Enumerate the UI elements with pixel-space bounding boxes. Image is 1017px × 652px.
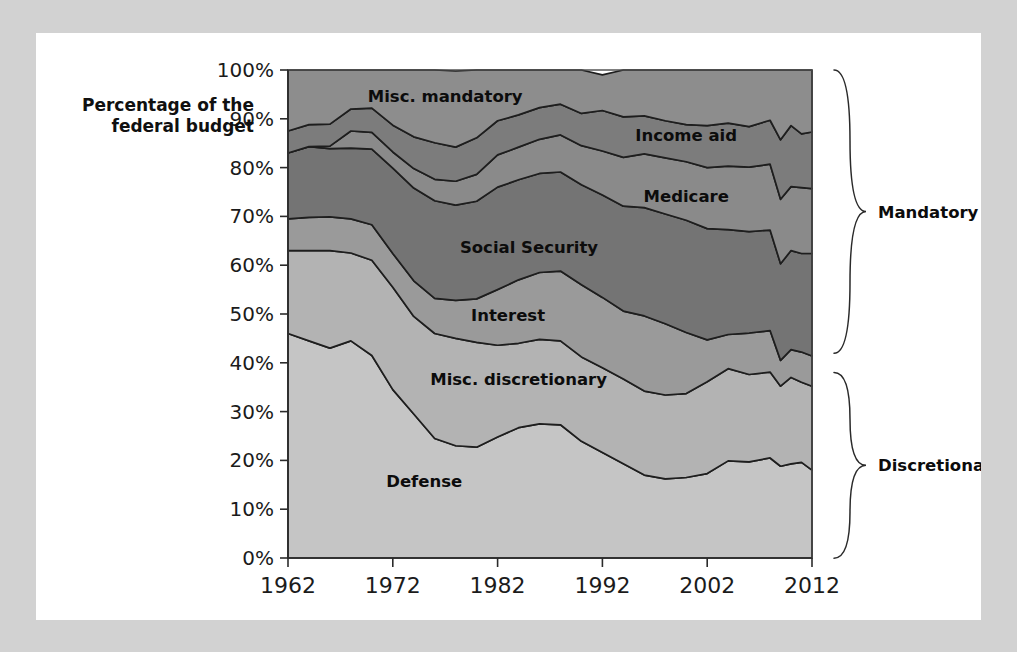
y-axis-title: Percentage of the federal budget	[82, 95, 254, 136]
y-tick-label-10: 10%	[230, 497, 274, 521]
y-tick-label-80: 80%	[230, 156, 274, 180]
band-label-medicare: Medicare	[644, 187, 729, 206]
category-brackets: MandatoryDiscretionary	[834, 70, 981, 558]
x-tick-label-2012: 2012	[784, 573, 840, 598]
y-tick-label-100: 100%	[217, 58, 274, 82]
bracket-label-discretionary: Discretionary	[878, 456, 981, 475]
x-tick-label-2002: 2002	[679, 573, 735, 598]
band-label-defense: Defense	[386, 472, 462, 491]
y-tick-label-30: 30%	[230, 400, 274, 424]
bracket-label-mandatory: Mandatory	[878, 203, 979, 222]
y-tick-label-40: 40%	[230, 351, 274, 375]
x-tick-label-1992: 1992	[574, 573, 630, 598]
band-label-misc-mandatory: Misc. mandatory	[368, 87, 523, 106]
y-tick-label-60: 60%	[230, 253, 274, 277]
stacked-area-chart: DefenseMisc. discretionaryInterestSocial…	[36, 33, 981, 620]
x-tick-label-1972: 1972	[365, 573, 421, 598]
bracket-discretionary	[834, 373, 866, 559]
y-tick-label-0: 0%	[242, 546, 274, 570]
x-tick-label-1982: 1982	[470, 573, 526, 598]
y-axis-title-line2: federal budget	[112, 116, 255, 136]
band-label-misc-discretionary: Misc. discretionary	[430, 370, 607, 389]
y-tick-label-50: 50%	[230, 302, 274, 326]
band-label-social-security: Social Security	[460, 238, 598, 257]
bracket-mandatory	[834, 70, 866, 353]
figure-card: DefenseMisc. discretionaryInterestSocial…	[36, 33, 981, 620]
band-label-income-aid: Income aid	[635, 126, 737, 145]
y-axis-title-line1: Percentage of the	[82, 95, 254, 115]
x-tick-label-1962: 1962	[260, 573, 316, 598]
y-tick-label-20: 20%	[230, 448, 274, 472]
band-label-interest: Interest	[471, 306, 545, 325]
chart-canvas: DefenseMisc. discretionaryInterestSocial…	[36, 33, 981, 620]
y-tick-label-70: 70%	[230, 204, 274, 228]
